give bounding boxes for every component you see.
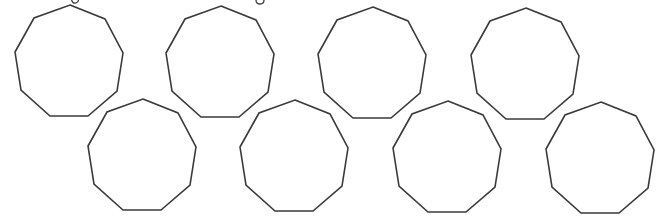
nonagon-1	[15, 5, 123, 116]
cropped-glyph-descender-2	[256, 0, 264, 4]
nonagon-3	[318, 7, 426, 118]
nonagon-2	[166, 6, 274, 117]
nonagon-7	[393, 101, 501, 212]
nonagon-8	[546, 102, 654, 213]
nonagon-4	[471, 8, 579, 119]
cropped-glyph-descender-1	[72, 0, 79, 3]
nonagon-6	[240, 100, 348, 211]
cropped-text-fragments	[72, 0, 265, 4]
nonagon-5	[88, 99, 196, 210]
nonagon-diagram	[0, 0, 665, 224]
